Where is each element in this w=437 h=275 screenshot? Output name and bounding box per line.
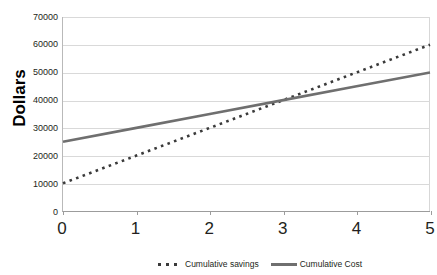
x-axis-tick-label: 2 (194, 219, 224, 239)
y-axis-tick-label: 60000 (14, 40, 58, 49)
y-axis-tick-label: 40000 (14, 96, 58, 105)
series-lines (63, 17, 430, 211)
x-axis-tick-mark (137, 211, 138, 215)
x-axis-tick-labels: 012345 (62, 219, 430, 243)
solid-line-swatch-icon (271, 263, 297, 266)
series-line (63, 45, 430, 184)
x-axis-tick-mark (357, 211, 358, 215)
y-axis-tick-label: 30000 (14, 124, 58, 133)
x-axis-tick-label: 5 (415, 219, 437, 239)
y-axis-tick-labels: 010000200003000040000500006000070000 (14, 17, 58, 212)
x-axis-tick-mark (210, 211, 211, 215)
x-axis-tick-label: 1 (121, 219, 151, 239)
y-axis-tick-label: 0 (14, 208, 58, 217)
legend-label: Cumulative Cost (300, 259, 362, 269)
y-axis-tick-label: 70000 (14, 13, 58, 22)
dashed-line-swatch-icon (158, 263, 182, 266)
y-axis-tick-label: 10000 (14, 180, 58, 189)
series-line (63, 72, 430, 141)
legend-label: Cumulative savings (185, 259, 259, 269)
x-axis-tick-label: 0 (47, 219, 77, 239)
plot-area (62, 17, 430, 212)
x-axis-tick-mark (431, 211, 432, 215)
y-axis-tick-label: 20000 (14, 152, 58, 161)
y-axis-tick-label: 50000 (14, 68, 58, 77)
x-axis-tick-mark (63, 211, 64, 215)
legend-item-cumulative-cost: Cumulative Cost (271, 259, 362, 269)
chart-legend: Cumulative savings Cumulative Cost (158, 257, 362, 271)
x-axis-tick-label: 3 (268, 219, 298, 239)
x-axis-tick-label: 4 (341, 219, 371, 239)
line-chart: Dollars 01000020000300004000050000600007… (0, 0, 437, 275)
x-axis-tick-mark (284, 211, 285, 215)
legend-item-cumulative-savings: Cumulative savings (158, 259, 259, 269)
